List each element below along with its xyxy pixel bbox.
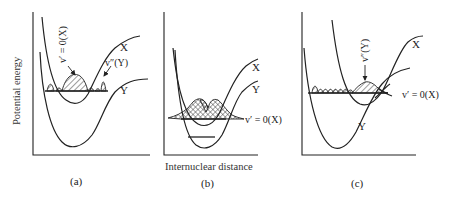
y-axis-label: Potential energy bbox=[11, 56, 22, 125]
panel-c-axes bbox=[302, 12, 416, 155]
label-curve-y: Y bbox=[358, 120, 366, 132]
panel-a-axes bbox=[33, 12, 150, 155]
label-curve-y: Y bbox=[120, 84, 128, 96]
x-axis-label: Internuclear distance bbox=[165, 161, 253, 172]
label-v-prime-0-x: v′ = 0(X) bbox=[402, 89, 439, 101]
wavefunction-lobe bbox=[95, 89, 100, 91]
wavefunction-peak bbox=[101, 82, 106, 91]
label-v-double-prime-y: v″(Y) bbox=[359, 39, 371, 62]
label-curve-x: X bbox=[120, 41, 128, 53]
caption-b: (b) bbox=[201, 177, 214, 190]
panel-c: v″(Y) X Y v′ = 0(X) (c) bbox=[302, 12, 439, 190]
label-v-double-prime-y: v″(Y) bbox=[105, 57, 128, 69]
caption-a: (a) bbox=[70, 175, 83, 188]
label-curve-x: X bbox=[412, 38, 420, 50]
caption-c: (c) bbox=[351, 177, 364, 190]
label-curve-x: X bbox=[252, 61, 260, 73]
panel-b: X Y v′ = 0(X) Internuclear distance (b) bbox=[164, 12, 282, 190]
panel-a: v′ = 0(X) v″(Y) X Y (a) bbox=[33, 12, 150, 188]
wavefunction-v-x bbox=[62, 74, 88, 91]
wavefunction-lobe bbox=[88, 88, 94, 91]
label-v-prime-0-x: v′ = 0(X) bbox=[57, 26, 69, 63]
curve-y bbox=[304, 48, 410, 148]
curve-y bbox=[40, 52, 148, 147]
potential-energy-diagram: v′ = 0(X) v″(Y) X Y (a) Potential energy… bbox=[0, 0, 458, 198]
label-v-prime-0-x: v′ = 0(X) bbox=[245, 114, 282, 126]
label-curve-y: Y bbox=[252, 83, 260, 95]
curve-y bbox=[175, 50, 258, 148]
wavefunction-v-y bbox=[47, 84, 54, 91]
arrow-icon bbox=[68, 66, 75, 75]
